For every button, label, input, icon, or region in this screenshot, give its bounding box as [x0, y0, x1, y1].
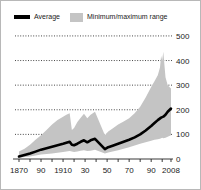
chart-figure: Average Minimum/maximum range 0100200300…	[0, 0, 201, 190]
x-tick-label: 30	[81, 166, 90, 175]
x-tick-label: 90	[37, 166, 46, 175]
y-tick-label: 0	[176, 155, 180, 164]
x-tick-label: 50	[103, 166, 112, 175]
y-tick-label: 400	[176, 56, 189, 65]
x-tick-label: 70	[125, 166, 134, 175]
y-tick-label: 200	[176, 105, 189, 114]
x-tick-label: 2008	[162, 166, 180, 175]
legend-line-swatch-icon	[14, 15, 30, 19]
y-tick-label: 100	[176, 130, 189, 139]
x-tick-label: 1910	[54, 166, 72, 175]
minmax-band	[19, 52, 171, 158]
legend-label-range: Minimum/maximum range	[87, 12, 168, 22]
x-tick-label: 1870	[10, 166, 28, 175]
legend-label-average: Average	[34, 12, 60, 22]
plot-area: 0100200300400500 1870901910305070902008	[1, 29, 201, 190]
x-tick-label: 90	[147, 166, 156, 175]
legend-item-average: Average	[14, 12, 60, 22]
y-tick-label: 500	[176, 31, 189, 40]
y-tick-label: 300	[176, 81, 189, 90]
legend-box-swatch-icon	[70, 13, 83, 22]
legend-item-range: Minimum/maximum range	[70, 12, 168, 22]
chart-legend: Average Minimum/maximum range	[1, 12, 201, 28]
x-axis	[13, 159, 173, 162]
